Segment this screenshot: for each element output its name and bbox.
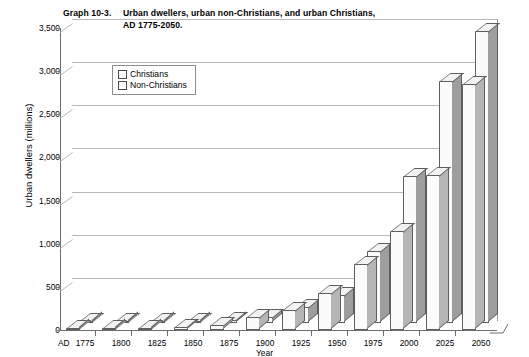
- x-axis-title: Year: [0, 348, 529, 357]
- legend-swatch-non-christians: [118, 81, 127, 90]
- bar-christians: [210, 325, 224, 330]
- bar-group: [354, 30, 390, 330]
- bar-group: [390, 30, 426, 330]
- bar-side-face: [367, 257, 377, 329]
- bar-side-face: [475, 77, 485, 329]
- bar-side-face: [416, 169, 426, 322]
- bar-side-face: [452, 74, 462, 322]
- bar-group: [66, 30, 102, 330]
- bar-side-face: [488, 24, 498, 322]
- x-tick-label: 2050: [454, 338, 508, 348]
- bar-group: [426, 30, 462, 330]
- bar-side-face: [403, 223, 413, 329]
- legend-item-christians: Christians: [118, 69, 187, 80]
- bar-christians: [318, 293, 332, 330]
- bar-christians: [462, 84, 476, 330]
- bar-christians: [66, 328, 80, 330]
- bar-christians: [138, 328, 152, 330]
- legend-item-non-christians: Non-Christians: [118, 80, 187, 91]
- legend: Christians Non-Christians: [112, 65, 196, 95]
- bar-group: [318, 30, 354, 330]
- bar-christians: [390, 231, 404, 330]
- bar-christians: [102, 328, 116, 330]
- bar-group: [246, 30, 282, 330]
- bar-side-face: [439, 167, 449, 329]
- chart-root: Graph 10-3.Urban dwellers, urban non-Chr…: [0, 0, 529, 357]
- bar-side-face: [380, 244, 390, 322]
- bar-christians: [426, 175, 440, 330]
- bar-christians: [246, 317, 260, 330]
- legend-label-non-christians: Non-Christians: [130, 80, 187, 91]
- bar-christians: [354, 264, 368, 330]
- bar-series-container: [0, 0, 529, 357]
- bar-group: [210, 30, 246, 330]
- legend-swatch-christians: [118, 70, 127, 79]
- bar-christians: [282, 310, 296, 330]
- bar-group: [282, 30, 318, 330]
- legend-label-christians: Christians: [130, 69, 168, 80]
- bar-group: [462, 30, 498, 330]
- bar-christians: [174, 327, 188, 330]
